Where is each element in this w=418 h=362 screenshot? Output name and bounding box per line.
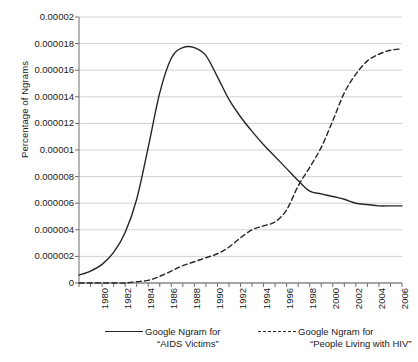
- x-tick-label: 1982: [122, 288, 133, 328]
- x-tick-label: 2004: [376, 288, 387, 328]
- x-tick-label: 1988: [191, 288, 202, 328]
- x-tick-label: 1994: [261, 288, 272, 328]
- legend-line-sample-dashed: [258, 331, 296, 332]
- x-tick-label: 2000: [330, 288, 341, 328]
- x-tick-label: 1980: [99, 288, 110, 328]
- legend-label-line1: Google Ngram for: [298, 326, 374, 337]
- x-tick-label: 1986: [168, 288, 179, 328]
- x-tick-label: 2002: [353, 288, 364, 328]
- legend-label-aids-victims: Google Ngram for “AIDS Victims”: [145, 326, 221, 350]
- x-tick-label: 1998: [307, 288, 318, 328]
- x-tick-label: 2006: [399, 288, 410, 328]
- chart-legend: Google Ngram for “AIDS Victims” Google N…: [0, 326, 418, 360]
- x-tick-label: 1984: [145, 288, 156, 328]
- legend-label-line2: “AIDS Victims”: [145, 338, 221, 350]
- ngram-line-chart: Percentage of Ngrams 00.0000020.0000040.…: [0, 0, 418, 362]
- legend-label-line2: “People Living with HIV”: [298, 338, 411, 350]
- legend-line-sample-solid: [105, 331, 143, 332]
- legend-label-people-living-with-hiv: Google Ngram for “People Living with HIV…: [298, 326, 411, 350]
- x-tick-label: 1996: [284, 288, 295, 328]
- x-axis-tick-labels: 1980198219841986198819901992199419961998…: [0, 0, 418, 362]
- x-tick-label: 1990: [214, 288, 225, 328]
- legend-label-line1: Google Ngram for: [145, 326, 221, 337]
- x-tick-label: 1992: [237, 288, 248, 328]
